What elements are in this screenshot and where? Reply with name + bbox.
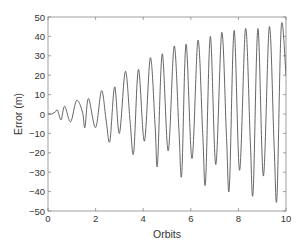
y-tick-label: −10	[29, 128, 45, 139]
y-tick-label: 20	[34, 70, 45, 81]
y-tick-label: −50	[29, 206, 45, 217]
y-tick-label: −20	[29, 147, 45, 158]
x-axis-label: Orbits	[153, 228, 181, 240]
plot-area	[48, 17, 286, 211]
y-tick-label: −30	[29, 167, 45, 178]
x-tick-label: 8	[236, 213, 241, 224]
y-axis-label: Error (m)	[12, 93, 24, 135]
x-tick-label: 6	[188, 213, 193, 224]
y-tick-label: 50	[34, 12, 45, 23]
y-tick-label: 40	[34, 31, 45, 42]
y-tick-label: 0	[40, 109, 45, 120]
x-tick-label: 2	[93, 213, 98, 224]
error-vs-orbits-chart: −50−40−30−20−1001020304050 0246810 Orbit…	[0, 0, 306, 245]
y-tick-label: 30	[34, 50, 45, 61]
y-tick-label: 10	[34, 89, 45, 100]
x-tick-label: 0	[45, 213, 50, 224]
y-tick-label: −40	[29, 186, 45, 197]
x-tick-label: 4	[141, 213, 146, 224]
x-tick-label: 10	[281, 213, 292, 224]
